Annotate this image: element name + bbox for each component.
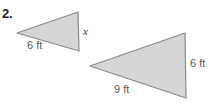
- large-triangle-base-label: 9 ft: [114, 84, 129, 95]
- triangles-figure: [0, 0, 216, 103]
- problem-figure-page: 2. 6 ft x 9 ft 6 ft: [0, 0, 216, 103]
- small-triangle-unknown-side-label: x: [83, 26, 88, 37]
- large-triangle-right-side-label: 6 ft: [190, 58, 205, 69]
- small-triangle-base-label: 6 ft: [27, 40, 42, 51]
- large-triangle-shape: [90, 33, 186, 98]
